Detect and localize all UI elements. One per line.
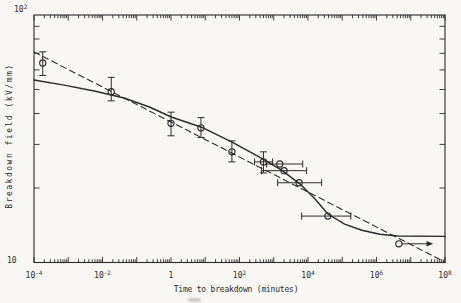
data-point (396, 241, 433, 247)
x-tick-label: 10-4 (26, 269, 43, 281)
scan-artifact (188, 298, 201, 302)
fit-dashed-line (34, 52, 445, 262)
x-axis-label: Time to breakdown (minutes) (174, 285, 299, 294)
data-point (108, 77, 115, 101)
y-tick-label: 10 (7, 256, 17, 265)
x-tick-label: 10-2 (94, 269, 111, 281)
data-point (302, 213, 351, 220)
x-tick-label: 104 (301, 269, 315, 281)
breakdown-time-chart: 10-410-2110210410610810210 (0, 0, 461, 303)
x-tick-label: 102 (233, 269, 247, 281)
y-tick-label: 102 (14, 3, 28, 15)
y-axis-label: Breakdown field (kV/mm) (5, 63, 14, 208)
x-tick-label: 106 (370, 269, 384, 281)
data-point (262, 167, 307, 174)
data-point (39, 52, 46, 76)
data-point-circle (396, 241, 402, 247)
scanned-figure-page: 10-410-2110210410610810210 Breakdown fie… (0, 0, 461, 303)
x-tick-label: 108 (438, 269, 452, 281)
x-tick-label: 1 (169, 271, 174, 280)
model-solid-curve (34, 80, 445, 236)
censored-arrow-head (427, 241, 434, 246)
plot-border (34, 15, 445, 263)
